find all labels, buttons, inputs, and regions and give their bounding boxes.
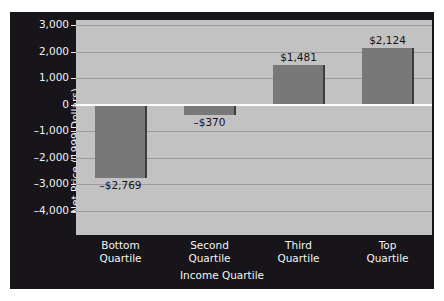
x-axis-tick-label: ThirdQuartile <box>254 239 344 264</box>
x-axis-title: Income Quartile <box>10 269 434 281</box>
y-axis-tick-label: 1,000 <box>13 72 69 83</box>
y-axis-tick-label: –1,000 <box>13 125 69 136</box>
x-axis-tick-label-line: Top <box>343 239 433 252</box>
y-axis-tick-label: –4,000 <box>13 205 69 216</box>
x-axis-tick-label-line: Bottom <box>76 239 166 252</box>
bar-data-label: $1,481 <box>254 51 344 63</box>
y-axis-tick-label: 0 <box>13 99 69 110</box>
x-axis-tick-label-line: Quartile <box>343 252 433 265</box>
bar-data-label: $2,124 <box>343 34 433 46</box>
x-axis-tick-label: TopQuartile <box>343 239 433 264</box>
chart-axis-frame: Net Price (1999 Dollars) 3,0002,0001,000… <box>10 12 434 289</box>
x-axis-tick-label-line: Quartile <box>254 252 344 265</box>
zero-line <box>76 104 432 106</box>
bar <box>273 65 325 104</box>
bar-chart-figure: Net Price (1999 Dollars) 3,0002,0001,000… <box>0 0 444 301</box>
bar-data-label: –$2,769 <box>76 179 166 191</box>
x-axis-tick-label-line: Quartile <box>165 252 255 265</box>
x-axis-tick-label-line: Quartile <box>76 252 166 265</box>
y-axis-tick-label: –3,000 <box>13 178 69 189</box>
x-axis-tick-label: BottomQuartile <box>76 239 166 264</box>
bar <box>362 48 414 104</box>
x-axis-tick-label: SecondQuartile <box>165 239 255 264</box>
x-axis-tick-label-line: Third <box>254 239 344 252</box>
y-axis-tick-label: 3,000 <box>13 19 69 30</box>
y-axis-tick-label: 2,000 <box>13 46 69 57</box>
bar <box>95 105 147 179</box>
y-axis-tick-label: –2,000 <box>13 152 69 163</box>
bar-data-label: –$370 <box>165 116 255 128</box>
x-axis-tick-label-line: Second <box>165 239 255 252</box>
bar <box>184 105 236 115</box>
